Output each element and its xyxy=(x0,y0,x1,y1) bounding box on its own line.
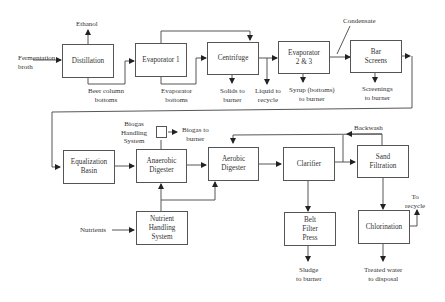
clarifier-node: Clarifier xyxy=(283,147,335,181)
aerobic-label-1: Aerobic xyxy=(222,155,245,164)
to-recycle-label-1: To xyxy=(405,193,425,202)
syrup-label-1: Syrup (bottoms) xyxy=(289,86,335,95)
evaporator-bottoms-label: Evaporator bottoms xyxy=(161,87,192,104)
evaporator1-node: Evaporator 1 xyxy=(135,43,187,77)
syrup-label-2: to burner xyxy=(289,95,335,104)
evap-bottoms-label-1: Evaporator xyxy=(161,87,192,96)
equalization-basin-node: Equalization Basin xyxy=(63,150,115,184)
biogas-handling-system-label: Biogas Handling System xyxy=(121,120,147,146)
bar-screens-node: Bar Screens xyxy=(350,40,402,73)
distillation-node: Distillation xyxy=(62,44,114,78)
liquid-to-recycle-label: Liquid to recycle xyxy=(255,87,281,104)
belt-label-3: Press xyxy=(302,234,317,243)
chlorination-node: Chlorination xyxy=(358,210,410,244)
biogas-to-burner-label: Biogas to burner xyxy=(182,126,209,143)
evaporator23-label-1: Evaporator xyxy=(288,49,320,58)
beer-label-2: bottoms xyxy=(88,96,124,105)
to-recycle-label-2: recycle xyxy=(405,202,425,211)
screenings-label-1: Screenings xyxy=(362,85,393,94)
nutrient-label-2: Handling xyxy=(149,224,176,233)
screenings-label-2: to burner xyxy=(362,94,393,103)
to-recycle-label: To recycle xyxy=(405,193,425,210)
anaerobic-digester-node: Anaerobic Digester xyxy=(136,149,187,183)
liquid-label-1: Liquid to xyxy=(255,87,281,96)
fermentation-label-2: broth xyxy=(18,63,55,72)
anaerobic-label-2: Digester xyxy=(149,166,173,175)
nutrient-label-3: System xyxy=(151,233,172,242)
belt-label-2: Filter xyxy=(302,225,318,234)
belt-filter-press-node: Belt Filter Press xyxy=(284,212,336,246)
fermentation-label-1: Fermentation xyxy=(18,54,55,63)
solids-label-2: burner xyxy=(220,96,245,105)
distillation-label: Distillation xyxy=(72,57,104,66)
beer-label-1: Beer column xyxy=(88,87,124,96)
evaporator1-label: Evaporator 1 xyxy=(142,56,179,65)
biogas-sys-label-1: Biogas xyxy=(121,120,147,129)
biogas-burner-label-2: burner xyxy=(182,135,209,144)
clarifier-label: Clarifier xyxy=(297,160,321,169)
liquid-label-2: recycle xyxy=(255,96,281,105)
equalization-label-1: Equalization xyxy=(71,158,107,167)
sand-label-1: Sand xyxy=(376,153,390,162)
treated-water-label: Treated water to disposal xyxy=(364,266,402,283)
biogas-handling-box xyxy=(156,126,167,138)
sludge-label-2: to burner xyxy=(296,275,321,284)
evaporator23-label-2: 2 & 3 xyxy=(296,58,312,67)
screenings-to-burner-label: Screenings to burner xyxy=(362,85,393,102)
condensate-label: Condensate xyxy=(343,17,376,26)
nutrient-handling-node: Nutrient Handling System xyxy=(136,211,188,245)
treated-label-1: Treated water xyxy=(364,266,402,275)
solids-label-1: Solids to xyxy=(220,87,245,96)
nutrients-label: Nutrients xyxy=(80,226,106,235)
evap-bottoms-label-2: bottoms xyxy=(161,96,192,105)
nutrient-label-1: Nutrient xyxy=(150,215,174,224)
evaporator23-node: Evaporator 2 & 3 xyxy=(278,41,330,74)
syrup-to-burner-label: Syrup (bottoms) to burner xyxy=(289,86,335,103)
bar-screens-label-1: Bar xyxy=(371,48,381,57)
biogas-burner-label-1: Biogas to xyxy=(182,126,209,135)
sludge-label-1: Sludge xyxy=(296,266,321,275)
bar-screens-label-2: Screens xyxy=(365,57,387,66)
centrifuge-label: Centrifuge xyxy=(218,54,249,63)
anaerobic-label-1: Anaerobic xyxy=(147,157,177,166)
sand-label-2: Filtration xyxy=(370,162,397,171)
sand-filtration-node: Sand Filtration xyxy=(357,145,409,178)
solids-to-burner-label: Solids to burner xyxy=(220,87,245,104)
ethanol-label: Ethanol xyxy=(76,20,98,29)
backwash-label: Backwash xyxy=(354,124,383,133)
fermentation-broth-label: Fermentation broth xyxy=(18,54,55,71)
chlorination-label: Chlorination xyxy=(366,223,402,232)
centrifuge-node: Centrifuge xyxy=(207,42,259,75)
belt-label-1: Belt xyxy=(304,216,316,225)
biogas-sys-label-2: Handling xyxy=(121,129,147,138)
biogas-sys-label-3: System xyxy=(121,137,147,146)
treated-label-2: to disposal xyxy=(364,275,402,284)
aerobic-label-2: Digester xyxy=(221,164,245,173)
beer-column-label: Beer column bottoms xyxy=(88,87,124,104)
equalization-label-2: Basin xyxy=(81,167,97,176)
aerobic-digester-node: Aerobic Digester xyxy=(208,147,259,181)
sludge-to-burner-label: Sludge to burner xyxy=(296,266,321,283)
